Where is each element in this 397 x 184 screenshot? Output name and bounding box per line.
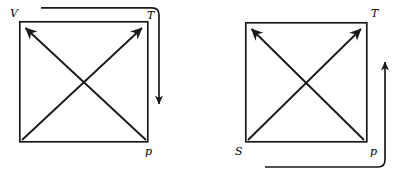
right-label-pressure: p — [370, 146, 377, 157]
thermodynamic-square-figure: V T p T S p — [0, 0, 397, 184]
right-label-temperature: T — [371, 8, 378, 19]
right-square-group — [246, 23, 385, 167]
left-diagonal-up-left-arrow — [26, 28, 147, 140]
left-square-group — [20, 8, 159, 142]
left-label-volume: V — [10, 8, 18, 19]
right-label-entropy: S — [235, 146, 243, 157]
left-label-temperature: T — [147, 10, 154, 21]
right-diagonal-up-left-arrow — [252, 29, 365, 140]
right-diagonal-up-right-arrow — [248, 29, 361, 140]
diagram-canvas — [0, 0, 397, 184]
left-label-pressure: p — [145, 146, 152, 157]
left-diagonal-up-right-arrow — [22, 28, 142, 140]
